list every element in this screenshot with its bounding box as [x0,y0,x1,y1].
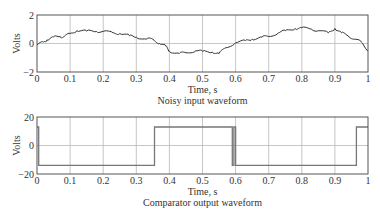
grid [37,15,368,72]
x-axis-label: Time, s [188,84,218,95]
x-tick-label: 0.9 [329,73,342,84]
y-tick-label: 0 [29,140,34,151]
x-tick-label: 0.6 [229,175,242,186]
x-tick-label: 0.8 [296,175,309,186]
y-tick-label: −2 [23,67,34,78]
x-tick-label: 0.1 [64,73,77,84]
x-tick-label: 0.5 [196,73,209,84]
x-tick-label: 1 [366,73,371,84]
y-tick-label: 2 [29,10,34,21]
chart-title: Comparator output waveform [143,197,262,208]
x-tick-label: 0.2 [97,73,110,84]
x-tick-label: 0.7 [262,175,275,186]
x-tick-label: 0.1 [64,175,77,186]
y-axis-label: Volts [11,135,22,155]
x-tick-label: 0.4 [163,175,176,186]
x-axis-label: Time, s [188,186,218,197]
x-tick-label: 0.8 [296,73,309,84]
x-tick-label: 0.7 [262,73,275,84]
y-tick-label: 0 [29,38,34,49]
noisy-input-plot: 00.10.20.30.40.50.60.70.80.91 −202 Volts… [11,10,371,107]
x-tick-label: 0.3 [130,175,143,186]
y-tick-labels: −202 [23,10,34,78]
x-tick-labels: 00.10.20.30.40.50.60.70.80.91 [35,73,371,84]
x-tick-label: 0 [35,73,40,84]
x-tick-label: 0.4 [163,73,176,84]
y-tick-label: 20 [24,112,34,123]
x-tick-label: 0.9 [329,175,342,186]
chart-figure: 00.10.20.30.40.50.60.70.80.91 −202 Volts… [0,0,380,218]
x-tick-label: 1 [366,175,371,186]
comparator-output-plot: 00.10.20.30.40.50.60.70.80.91 −20020 Vol… [11,112,371,209]
x-tick-label: 0.6 [229,73,242,84]
chart-title: Noisy input waveform [158,95,248,106]
x-tick-label: 0.5 [196,175,209,186]
x-tick-label: 0 [35,175,40,186]
y-axis-label: Volts [11,33,22,53]
y-tick-label: −20 [18,169,34,180]
x-tick-label: 0.2 [97,175,110,186]
x-tick-labels: 00.10.20.30.40.50.60.70.80.91 [35,175,371,186]
x-tick-label: 0.3 [130,73,143,84]
